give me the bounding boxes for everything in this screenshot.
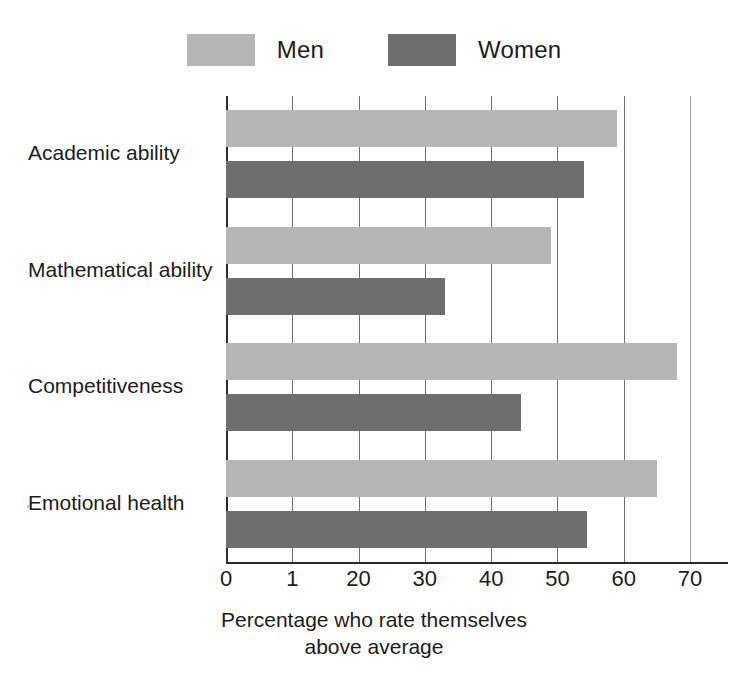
- chart-legend: Men Women: [0, 28, 748, 72]
- legend-entry-men: Men: [187, 34, 324, 66]
- x-axis-tick-labels: 01203040506070: [0, 566, 748, 596]
- legend-label-women: Women: [478, 36, 561, 64]
- gridline-70: [690, 96, 691, 562]
- tick-label-20: 20: [346, 566, 370, 592]
- bar-women-3: [226, 511, 587, 548]
- tick-label-10: 1: [286, 566, 298, 592]
- x-axis-title-line-1: above average: [0, 633, 748, 660]
- bar-women-1: [226, 278, 445, 315]
- tick-label-70: 70: [678, 566, 702, 592]
- bar-women-0: [226, 161, 584, 198]
- bar-men-3: [226, 460, 657, 497]
- x-axis-title-line-0: Percentage who rate themselves: [0, 606, 748, 633]
- men-swatch-icon: [187, 34, 255, 66]
- category-label-2: Competitiveness: [28, 374, 240, 398]
- category-label-3: Emotional health: [28, 491, 240, 515]
- women-swatch-icon: [388, 34, 456, 66]
- bar-chart: Men Women Academic abilityMathematical a…: [0, 0, 748, 684]
- bar-men-1: [226, 227, 551, 264]
- bar-women-2: [226, 394, 521, 431]
- bar-men-2: [226, 343, 677, 380]
- scan-speck: [27, 505, 30, 508]
- category-axis: Academic abilityMathematical abilityComp…: [14, 96, 214, 562]
- legend-label-men: Men: [277, 36, 324, 64]
- legend-entry-women: Women: [388, 34, 561, 66]
- x-axis-line: [226, 562, 728, 564]
- tick-label-50: 50: [545, 566, 569, 592]
- tick-label-0: 0: [220, 566, 232, 592]
- x-axis-title: Percentage who rate themselvesabove aver…: [0, 606, 748, 660]
- category-label-1: Mathematical ability: [28, 258, 240, 282]
- tick-label-60: 60: [611, 566, 635, 592]
- plot-area: [226, 96, 690, 562]
- category-label-0: Academic ability: [28, 141, 240, 165]
- tick-label-40: 40: [479, 566, 503, 592]
- tick-label-30: 30: [413, 566, 437, 592]
- bar-men-0: [226, 110, 617, 147]
